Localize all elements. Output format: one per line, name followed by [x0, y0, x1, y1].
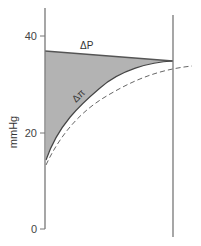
shaded-area — [45, 51, 173, 160]
delta-p-label: ΔP — [80, 40, 94, 51]
tick-label-40: 40 — [25, 30, 37, 42]
chart: 40 20 0 mmHg ΔP Δπ — [0, 0, 201, 246]
y-axis-title: mmHg — [7, 116, 19, 148]
tick-label-20: 20 — [25, 127, 37, 139]
tick-label-0: 0 — [31, 223, 37, 235]
